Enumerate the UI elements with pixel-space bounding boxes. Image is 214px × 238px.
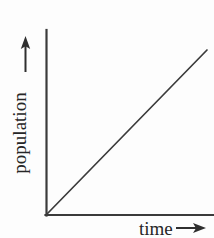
right-arrow-icon	[176, 221, 206, 235]
population-vs-time-chart: population time	[0, 0, 214, 238]
x-axis-label-text: time	[139, 219, 173, 238]
data-series-population-line	[47, 50, 207, 214]
y-axis-label-text: population	[9, 92, 31, 173]
x-axis-label: time	[139, 217, 206, 238]
y-axis-label: population	[0, 72, 40, 194]
up-arrow-icon	[21, 36, 30, 72]
